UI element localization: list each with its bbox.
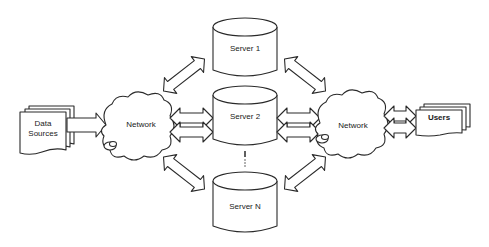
diagram-canvas: Data Sources Network Server 1 Server 2 S… — [0, 0, 489, 247]
server-2-label: Server 2 — [213, 112, 277, 122]
network-right-label: Network — [328, 121, 378, 131]
data-sources-label-line2: Sources — [20, 129, 66, 139]
network-left-label: Network — [116, 120, 166, 130]
arrow-networkleft-server2 — [170, 108, 213, 142]
arrow-server1-networkright — [278, 51, 331, 99]
arrow-server2-networkright — [277, 108, 320, 142]
users-label: Users — [416, 113, 462, 123]
arrow-networkright-users — [384, 106, 416, 138]
server-ellipsis — [244, 151, 245, 167]
arrow-networkleft-servern — [157, 149, 210, 197]
server-n-label: Server N — [213, 202, 277, 212]
arrow-servern-networkright — [278, 149, 331, 197]
server-1-label: Server 1 — [213, 44, 277, 54]
data-sources-label-line1: Data — [20, 119, 66, 129]
arrow-networkleft-server1 — [157, 51, 210, 99]
